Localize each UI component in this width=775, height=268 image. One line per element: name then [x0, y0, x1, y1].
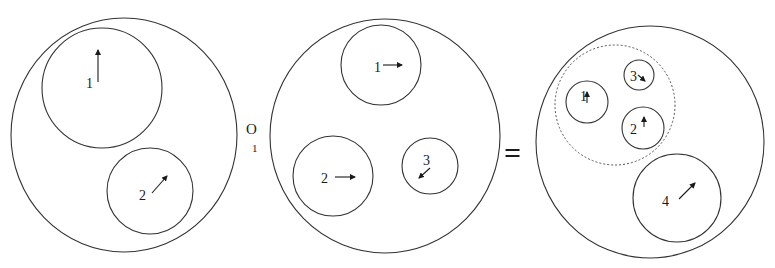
bubble-circle: [341, 25, 421, 105]
bubble-2: 2: [107, 148, 193, 234]
bubble-1: 1: [42, 28, 162, 148]
bubble-label: 3: [423, 153, 430, 168]
bubble-label: 2: [630, 122, 637, 137]
bubble-label: 1: [86, 76, 93, 91]
bubble-label: 2: [321, 171, 328, 186]
panel-left: 12: [11, 18, 237, 252]
bubble-1: 1: [341, 25, 421, 105]
bubble-2: 2: [293, 136, 373, 216]
bubble-4: 4: [633, 154, 721, 242]
bubble-circle: [293, 136, 373, 216]
operator-symbol: O: [246, 121, 257, 137]
bubble-3: 3: [624, 60, 654, 90]
bubble-circle: [42, 28, 162, 148]
bubble-label: 4: [662, 194, 669, 209]
velocity-arrow-icon: [419, 168, 430, 178]
velocity-arrow-icon: [679, 183, 695, 199]
outer-circle: [536, 26, 764, 258]
bubble-label: 1: [580, 89, 587, 104]
bubble-label: 2: [139, 188, 146, 203]
panel-middle: 123: [270, 19, 500, 253]
bubble-1: 1: [566, 81, 608, 123]
panel-right: 1324: [536, 26, 764, 258]
outer-circle: [270, 19, 500, 253]
bubble-circle: [107, 148, 193, 234]
merge-diagram: 121231324 O 1 =: [0, 0, 775, 268]
bubble-circle: [622, 107, 664, 149]
equals-sign: =: [504, 136, 521, 169]
bubble-label: 1: [374, 60, 381, 75]
dotted-group-circle: [555, 45, 675, 165]
bubble-label: 3: [630, 69, 637, 84]
bubble-circle: [624, 60, 654, 90]
bubble-circle: [402, 138, 458, 194]
velocity-arrow-icon: [638, 75, 645, 81]
bubble-3: 3: [402, 138, 458, 194]
operator-subscript: 1: [252, 142, 258, 154]
outer-circle: [11, 18, 237, 252]
bubble-circle: [633, 154, 721, 242]
velocity-arrow-icon: [152, 176, 167, 193]
bubble-2: 2: [622, 107, 664, 149]
